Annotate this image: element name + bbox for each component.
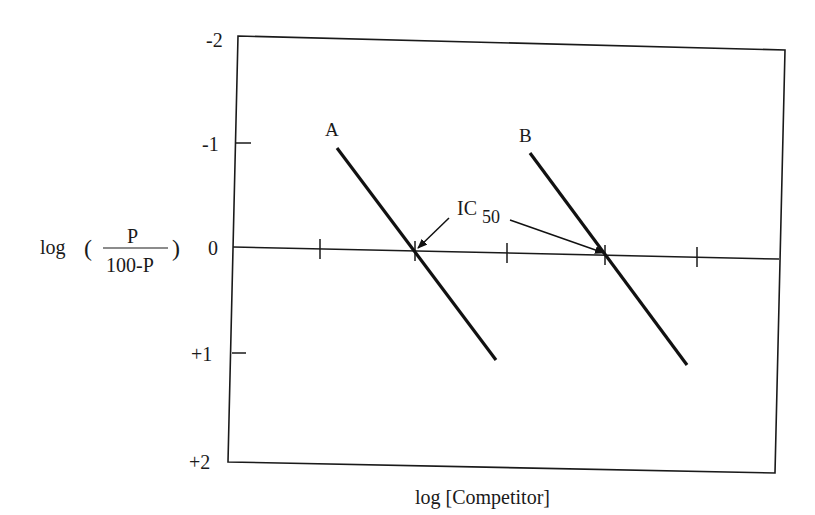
y-axis-denominator: 100-P bbox=[106, 254, 154, 276]
y-axis-paren-open: ( bbox=[84, 235, 92, 261]
ytick-label-m2: -2 bbox=[206, 29, 223, 51]
ytick-label-p2: +2 bbox=[189, 451, 210, 473]
x-axis-label: log [Competitor] bbox=[415, 486, 550, 509]
series-a-label: A bbox=[325, 119, 339, 140]
ic50-label: IC bbox=[457, 197, 477, 219]
series-b-label: B bbox=[519, 125, 532, 146]
y-axis-log: log bbox=[40, 236, 66, 259]
y-axis-numerator: P bbox=[127, 225, 138, 247]
ytick-label-m1: -1 bbox=[202, 133, 219, 155]
ic50-subscript: 50 bbox=[482, 207, 500, 227]
y-axis-paren-close: ) bbox=[172, 235, 180, 261]
series-b-line bbox=[530, 153, 687, 365]
series-a-line bbox=[337, 148, 496, 360]
ytick-label-p1: +1 bbox=[191, 343, 212, 365]
ytick-label-0: 0 bbox=[208, 237, 218, 259]
ic50-arrow-a bbox=[418, 218, 449, 248]
diagram-canvas: A B IC 50 -2 -1 0 +1 +2 log ( P 100-P ) … bbox=[0, 0, 815, 515]
